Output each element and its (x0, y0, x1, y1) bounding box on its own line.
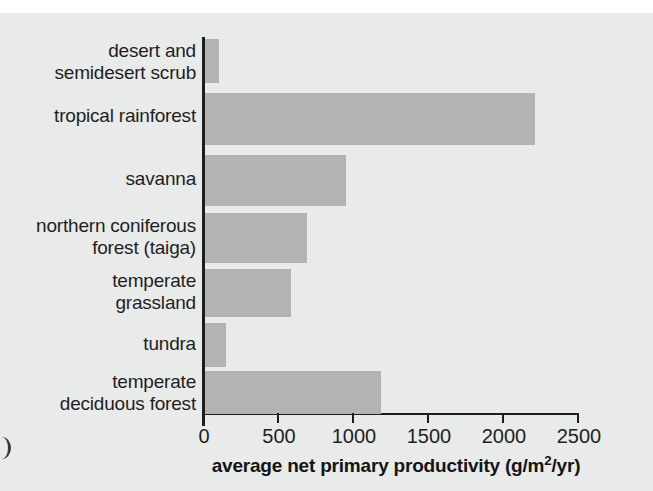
bar-temperate-grassland (205, 269, 291, 317)
bar-savanna (205, 155, 346, 206)
bar-northern-coniferous-forest-taiga (205, 213, 307, 263)
x-axis-title: average net primary productivity (g/m2/y… (186, 453, 606, 477)
category-label: temperate deciduous forest (0, 371, 196, 415)
bar-desert-and-semidesert-scrub (205, 39, 219, 83)
category-label: temperate grassland (0, 270, 196, 314)
bar-tundra (205, 323, 226, 367)
axis-tick-label: 1500 (389, 425, 469, 448)
category-label: tundra (0, 333, 196, 355)
scanned-figure-page: desert and semidesert scrub tropical rai… (0, 0, 653, 491)
bar-chart: desert and semidesert scrub tropical rai… (0, 13, 653, 491)
axis-tick-label: 0 (164, 425, 244, 448)
chart-row: savanna (0, 155, 653, 206)
axis-tick (352, 413, 354, 423)
category-label: northern coniferous forest (taiga) (0, 215, 196, 259)
x-axis-title-main: average net primary productivity (g/m (212, 455, 545, 476)
chart-row: temperate deciduous forest (0, 371, 653, 414)
category-label-line: semidesert scrub (0, 62, 196, 84)
axis-tick (577, 413, 579, 423)
category-label-line: temperate (0, 270, 196, 292)
category-label-line: tundra (0, 333, 196, 355)
category-label: savanna (0, 168, 196, 190)
axis-tick (202, 413, 204, 423)
chart-row: tundra (0, 323, 653, 367)
category-label: desert and semidesert scrub (0, 40, 196, 84)
category-label-line: savanna (0, 168, 196, 190)
category-label-line: northern coniferous (0, 215, 196, 237)
axis-tick-label: 500 (239, 425, 319, 448)
axis-tick (277, 413, 279, 423)
bar-temperate-deciduous-forest (205, 371, 381, 414)
bar-tropical-rainforest (205, 93, 535, 145)
chart-row: desert and semidesert scrub (0, 39, 653, 87)
chart-row: tropical rainforest (0, 93, 653, 145)
category-label-line: temperate (0, 371, 196, 393)
axis-tick-label: 2000 (464, 425, 544, 448)
chart-row: northern coniferous forest (taiga) (0, 213, 653, 263)
category-label-line: desert and (0, 40, 196, 62)
axis-tick (502, 413, 504, 423)
x-axis-title-tail: /yr) (552, 455, 581, 476)
x-axis-title-superscript: 2 (544, 453, 551, 468)
axis-tick-label: 2500 (539, 425, 619, 448)
category-label-line: forest (taiga) (0, 237, 196, 259)
category-label: tropical rainforest (0, 105, 196, 127)
axis-tick-label: 1000 (314, 425, 394, 448)
category-label-line: deciduous forest (0, 393, 196, 415)
chart-row: temperate grassland (0, 269, 653, 317)
axis-tick (427, 413, 429, 423)
category-label-line: grassland (0, 292, 196, 314)
category-label-line: tropical rainforest (0, 105, 196, 127)
